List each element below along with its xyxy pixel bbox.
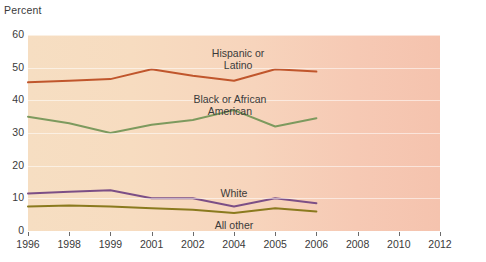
- annotation-line: Black or African: [193, 93, 266, 105]
- x-axis-tick-label: 2010: [387, 238, 410, 250]
- x-axis-tick-mark: [152, 232, 153, 236]
- chart-container: Percent 0102030405060 199619981999200120…: [0, 0, 486, 262]
- x-axis-tick-label: 2012: [428, 238, 451, 250]
- series-annotation-label: Black or AfricanAmerican: [193, 93, 266, 117]
- annotation-line: White: [221, 187, 248, 199]
- x-axis-tick-label: 2008: [346, 238, 369, 250]
- x-axis-tick-label: 2006: [305, 238, 328, 250]
- annotation-line: Hispanic or: [212, 47, 265, 59]
- x-axis-tick-label: 2005: [264, 238, 287, 250]
- x-axis-tick-mark: [275, 232, 276, 236]
- x-axis-tick-mark: [28, 232, 29, 236]
- series-annotation-label: All other: [215, 219, 254, 231]
- x-axis-tick-mark: [440, 232, 441, 236]
- x-axis-tick-label: 1996: [16, 238, 39, 250]
- gridline: [28, 133, 440, 134]
- x-axis-tick-mark: [358, 232, 359, 236]
- y-axis-title: Percent: [4, 4, 42, 16]
- y-axis-tick-label: 60: [0, 28, 24, 40]
- y-axis-tick-label: 30: [0, 126, 24, 138]
- annotation-line: All other: [215, 219, 254, 231]
- x-axis-tick-mark: [110, 232, 111, 236]
- gridline: [28, 166, 440, 167]
- y-axis-tick-label: 10: [0, 191, 24, 203]
- y-axis-tick-label: 0: [0, 224, 24, 236]
- x-axis-tick-label: 1999: [99, 238, 122, 250]
- series-line: [28, 110, 316, 133]
- series-line: [28, 69, 316, 82]
- series-line: [28, 206, 316, 214]
- y-axis-tick-label: 40: [0, 93, 24, 105]
- x-axis-tick-mark: [234, 232, 235, 236]
- y-axis-tick-label: 20: [0, 159, 24, 171]
- x-axis-tick-mark: [69, 232, 70, 236]
- series-annotation-label: White: [221, 187, 248, 199]
- series-annotation-label: Hispanic orLatino: [212, 47, 265, 71]
- x-axis-tick-mark: [193, 232, 194, 236]
- y-axis-tick-label: 50: [0, 61, 24, 73]
- x-axis-tick-label: 1998: [58, 238, 81, 250]
- annotation-line: American: [193, 105, 266, 117]
- x-axis-tick-mark: [316, 232, 317, 236]
- x-axis-tick-mark: [399, 232, 400, 236]
- x-axis-tick-label: 2004: [222, 238, 245, 250]
- x-axis-tick-label: 2001: [140, 238, 163, 250]
- gridline: [28, 35, 440, 36]
- annotation-line: Latino: [212, 59, 265, 71]
- x-axis-tick-label: 2002: [181, 238, 204, 250]
